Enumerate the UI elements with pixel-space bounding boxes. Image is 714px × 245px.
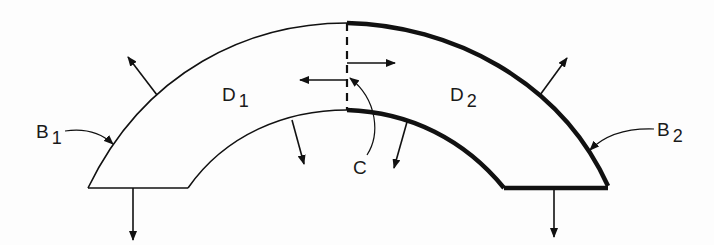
label-c: C xyxy=(353,158,367,177)
subdomain-d1-boundary xyxy=(88,23,347,188)
subdomain-d2-boundary xyxy=(347,23,608,188)
diagram-canvas: D1 D2 B1 B2 C xyxy=(0,0,714,245)
diagram-svg xyxy=(0,0,714,245)
label-b2: B2 xyxy=(657,120,683,139)
label-d1: D1 xyxy=(222,85,249,104)
label-b1: B1 xyxy=(36,122,62,141)
label-d2: D2 xyxy=(450,85,477,104)
